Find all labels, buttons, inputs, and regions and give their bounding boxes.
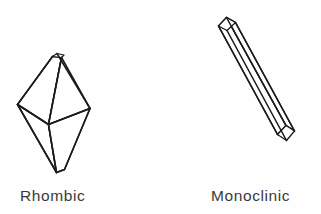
- monoclinic-label: Monoclinic: [211, 188, 290, 204]
- monoclinic-edge-front-long: [227, 31, 287, 141]
- rhombic-label: Rhombic: [20, 188, 85, 204]
- monoclinic-edge-right-long: [236, 23, 295, 132]
- crystal-habits-figure: Rhombic Monoclinic: [0, 0, 321, 214]
- monoclinic-crystal-drawing: [219, 18, 295, 141]
- rhombic-crystal-drawing: [18, 54, 91, 173]
- monoclinic-edge-left-long: [219, 26, 278, 135]
- crystal-diagram-canvas: [0, 0, 321, 214]
- monoclinic-edge-top-long: [227, 18, 287, 126]
